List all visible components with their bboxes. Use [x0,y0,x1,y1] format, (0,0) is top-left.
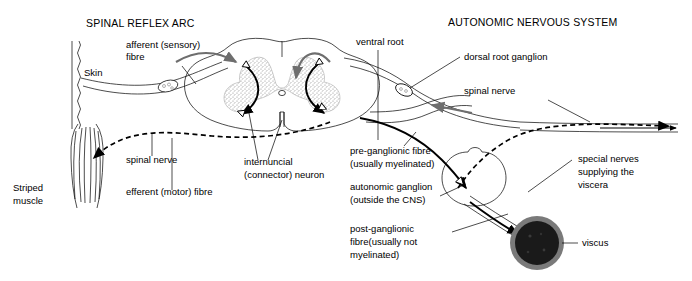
leader-internuncial [248,108,258,160]
autonomic-ganglion [442,148,506,207]
leader-dorsal-root-ganglion [410,57,460,88]
skin-surface [72,41,81,129]
leader-internuncial-2 [268,120,282,160]
label-special-nerves-line3: viscera [578,179,609,190]
leader-spinal-nerve-right [548,100,590,122]
post-ganglionic-fibre [464,196,520,236]
label-special-nerves-line1: special nerves [578,153,639,164]
label-pre-ganglionic-line1: pre-ganglionic fibre [350,145,431,156]
label-special-nerves-line2: supplying the [578,166,634,177]
label-efferent: efferent (motor) fibre [126,186,212,197]
label-post-ganglionic-line2: fibre(usually not [350,236,417,247]
label-pre-ganglionic-line2: (usually myelinated) [350,158,434,169]
label-autonomic-ganglion-line1: autonomic ganglion [350,181,432,192]
label-spinal-nerve-right: spinal nerve [464,85,515,96]
dorsal-root-ganglion-left [157,78,179,94]
central-canal [279,90,286,95]
striped-muscle [71,124,103,208]
title-spinal-reflex-arc: SPINAL REFLEX ARC [86,17,195,29]
afferent-sensory-fibre [81,53,236,94]
label-skin: Skin [84,67,102,78]
label-striped-muscle-line2: muscle [13,195,43,206]
label-viscus: viscus [582,237,609,248]
label-post-ganglionic-line3: myelinated) [350,249,399,260]
leader-special-nerves [528,160,572,192]
nervous-system-diagram: SPINAL REFLEX ARC AUTONOMIC NERVOUS SYST… [0,0,692,281]
label-post-ganglionic-line1: post-ganglionic [350,223,414,234]
spinal-cord-outline [184,38,379,131]
leader-autonomic-ganglion [440,184,466,196]
title-autonomic-nervous-system: AUTONOMIC NERVOUS SYSTEM [448,16,618,28]
label-internuncial-line2: (connector) neuron [244,169,324,180]
label-afferent-line2: fibre [126,51,144,62]
label-striped-muscle-line1: Striped [13,182,43,193]
leader-afferent [182,66,196,84]
label-internuncial-line1: internuncial [244,156,293,167]
diagram-canvas: SPINAL REFLEX ARC AUTONOMIC NERVOUS SYST… [0,0,692,281]
viscus [510,216,564,270]
label-afferent-line1: afferent (sensory) [126,39,200,50]
efferent-motor-fibre [96,122,330,156]
label-ventral-root: ventral root [356,36,404,47]
label-autonomic-ganglion-line2: (outside the CNS) [350,194,426,205]
label-dorsal-root-ganglion: dorsal root ganglion [464,51,547,62]
label-spinal-nerve-left: spinal nerve [126,154,177,165]
